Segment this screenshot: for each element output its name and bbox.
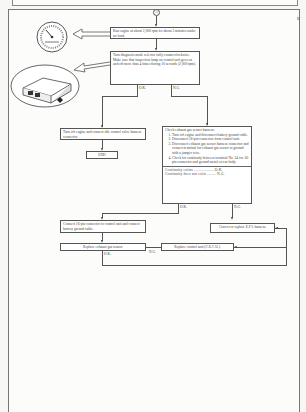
ok-label: O.K.	[180, 205, 187, 209]
step-run-engine: Run engine at about 2,000 rpm for about …	[110, 27, 200, 39]
edge-marker: B	[297, 16, 300, 21]
step-reconnect-text: Connect 16-pin connector to control unit…	[63, 222, 140, 231]
pointer-arrow-icon	[72, 60, 110, 74]
end-box: END	[86, 151, 118, 159]
arrow-left-icon	[275, 227, 278, 229]
step-connect-idle-valve: Turn off engine and connect idle control…	[60, 128, 146, 140]
arrow-down-icon	[231, 217, 233, 220]
step-diagnosis-mode: Turn diagnosis mode selector fully count…	[110, 51, 200, 85]
step-replace-control-unit: Replace control unit (C.E.C.U.).	[161, 243, 234, 251]
ng-down	[207, 96, 208, 125]
loop-bottom-line	[102, 265, 286, 266]
arrow-left-icon	[234, 246, 237, 248]
check-ok-line	[178, 204, 179, 213]
check-ok-horizontal	[102, 213, 179, 214]
result-ng: Continuity does not exist ........ N.G.	[165, 172, 249, 177]
ok-label: O.K.	[139, 86, 146, 90]
tachometer-icon	[34, 20, 74, 56]
check-step: Check for continuity between terminal No…	[172, 156, 249, 165]
step-diagnosis-line2: Make sure that inspection lamp on contro…	[113, 58, 197, 67]
step-correct-harness: Correct or replace E.F.I. harness.	[210, 223, 275, 233]
ok-down	[102, 96, 103, 127]
step-reconnect: Connect 16-pin connector to control unit…	[60, 220, 146, 233]
step-run-engine-text: Run engine at about 2,000 rpm for about …	[113, 29, 196, 38]
unit-return-line	[234, 247, 286, 248]
ng-label: N.G.	[234, 205, 241, 209]
ng-horizontal	[171, 96, 207, 97]
step-diagnosis-line1: Turn diagnosis mode selector fully count…	[113, 53, 197, 58]
previous-page-strip	[12, 0, 298, 6]
step-replace-control-unit-text: Replace control unit (C.E.C.U.).	[174, 245, 221, 249]
step-replace-sensor: Replace exhaust gas sensor.	[60, 243, 146, 251]
pointer-arrow-icon	[72, 28, 110, 40]
check-steps: Turn off engine and disconnect battery g…	[165, 133, 249, 165]
end-label: END	[98, 153, 105, 157]
ok-horizontal	[102, 96, 138, 97]
ng-label: N.G.	[149, 250, 156, 254]
control-unit-icon	[9, 64, 81, 108]
check-ng-line	[232, 204, 233, 218]
ok-label: O.K.	[104, 252, 111, 256]
loop-right-line	[286, 228, 287, 266]
ok-branch-line	[137, 85, 138, 96]
step-correct-harness-text: Correct or replace E.F.I. harness.	[219, 225, 266, 229]
ng-label: N.G.	[173, 86, 180, 90]
step-check-sensor-harness: Check exhaust gas sensor harness: Turn o…	[162, 126, 252, 204]
ng-branch-line	[171, 85, 172, 96]
sensor-ng-line	[146, 247, 161, 248]
step-connect-idle-valve-text: Turn off engine and connect idle control…	[63, 130, 141, 139]
connector-a-marker: A	[153, 9, 160, 16]
check-step: Disconnect exhaust gas sensor harness co…	[172, 142, 249, 156]
step-replace-sensor-text: Replace exhaust gas sensor.	[83, 245, 123, 249]
sensor-ok-line	[102, 251, 103, 266]
divider	[163, 166, 251, 167]
